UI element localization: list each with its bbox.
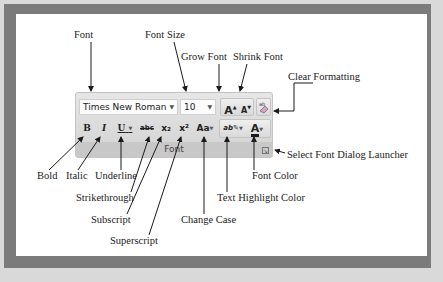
font-color-button[interactable]: A▼ [246,120,268,137]
font-name-combo[interactable]: Times New Roman ▼ [79,99,178,115]
group-label: Font [76,142,272,157]
text-highlight-color-button[interactable]: ab✎▼ [222,120,244,137]
callout-bold: Bold [37,170,57,182]
eraser-icon: ab [257,99,270,115]
callout-clear-formatting: Clear Formatting [288,71,360,83]
clear-formatting-button[interactable]: ab [256,98,271,116]
chevron-down-icon: ▼ [129,125,133,131]
font-ribbon-group: Times New Roman ▼ 10 ▼ A▲ A▼ ab B I U ▼ … [75,92,273,158]
change-case-button[interactable]: Aa▼ [194,120,216,137]
superscript-button[interactable]: x² [177,120,191,137]
callout-underline: Underline [95,170,137,182]
callout-grow-font: Grow Font [181,51,227,63]
bold-button[interactable]: B [81,120,93,137]
chevron-down-icon: ▼ [239,125,243,131]
chevron-down-icon: ▼ [259,126,263,132]
font-size-combo[interactable]: 10 ▼ [180,99,216,115]
callout-font-size: Font Size [145,29,185,41]
callout-strikethrough: Strikethrough [76,192,134,204]
chevron-down-icon: ▼ [210,125,214,131]
grow-shrink-group: A▲ A▼ [220,98,254,116]
dialog-launcher-button[interactable]: ↘ [262,147,269,154]
italic-button[interactable]: I [98,120,110,137]
callout-text-highlight-color: Text Highlight Color [217,192,305,204]
svg-text:ab: ab [259,101,265,107]
callout-italic: Italic [66,170,88,182]
color-buttons-group: ab✎▼ A▼ [219,119,271,138]
chevron-down-icon[interactable]: ▼ [169,100,174,114]
callout-dialog-launcher: Select Font Dialog Launcher [287,149,408,161]
callout-font: Font [74,29,93,41]
grow-font-button[interactable]: A▲ [223,99,238,116]
callout-subscript: Subscript [91,214,131,226]
font-name-value: Times New Roman [83,102,166,112]
strikethrough-button[interactable]: abc [139,120,155,137]
callout-change-case: Change Case [181,214,236,226]
callout-font-color: Font Color [252,170,298,182]
font-size-value: 10 [184,102,195,112]
underline-button[interactable]: U ▼ [116,120,134,137]
shrink-font-button[interactable]: A▼ [239,99,253,116]
subscript-button[interactable]: x₂ [159,120,173,137]
chevron-down-icon[interactable]: ▼ [207,100,212,114]
callout-superscript: Superscript [110,235,158,247]
callout-shrink-font: Shrink Font [233,51,283,63]
